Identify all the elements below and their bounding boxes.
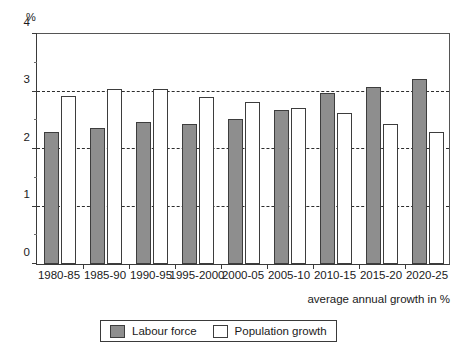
filled-grey-swatch [110, 325, 125, 338]
plot-area: 01234 [36, 33, 450, 265]
legend-label: Population growth [235, 325, 327, 337]
x-axis-tick-label: 1990-95 [130, 268, 172, 282]
x-axis-caption: average annual growth in % [307, 293, 450, 306]
x-axis-tick-label: 2000-05 [222, 268, 264, 282]
legend-label: Labour force [132, 325, 197, 337]
x-axis-tick-label: 2010-15 [314, 268, 356, 282]
x-axis-labels: 1980-851985-901990-951995-20002000-05200… [36, 268, 450, 284]
y-axis-tick-label: 1 [24, 189, 30, 201]
x-axis-tick-label: 1985-90 [84, 268, 126, 282]
y-axis-tick-label: 3 [24, 74, 30, 86]
y-axis-tick-label: 0 [24, 247, 30, 259]
x-axis-tick-label: 1980-85 [38, 268, 80, 282]
legend-entry: Labour force [110, 325, 197, 338]
bar-chart: % 01234 1980-851985-901990-951995-200020… [0, 0, 472, 362]
outlined-white-swatch [213, 325, 228, 338]
x-axis-tick-label: 2015-20 [360, 268, 402, 282]
x-axis-tick-label: 2020-25 [406, 268, 448, 282]
chart-legend: Labour forcePopulation growth [100, 320, 337, 342]
x-axis-tick-label: 1995-2000 [170, 268, 225, 282]
x-axis-ticks-layer [37, 34, 449, 264]
y-axis-tick-label: 2 [24, 132, 30, 144]
legend-entry: Population growth [213, 325, 327, 338]
x-axis-tick-label: 2005-10 [268, 268, 310, 282]
y-axis-tick-label: 4 [24, 17, 30, 29]
